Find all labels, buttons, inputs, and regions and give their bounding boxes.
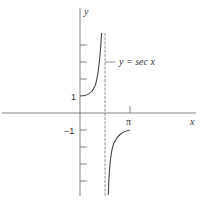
y-tick-label-1: 1 — [71, 92, 76, 102]
sec-graph: y x π 1 −1 y = sec x — [0, 0, 202, 200]
pi-label: π — [126, 116, 131, 127]
x-axis-label: x — [189, 116, 195, 127]
y-tick-label-minus-1: −1 — [64, 126, 74, 136]
sec-curve-right-branch — [108, 130, 130, 195]
curve-label: y = sec x — [118, 56, 155, 67]
y-axis-label: y — [83, 6, 89, 17]
sec-curve-left-branch — [80, 33, 102, 96]
